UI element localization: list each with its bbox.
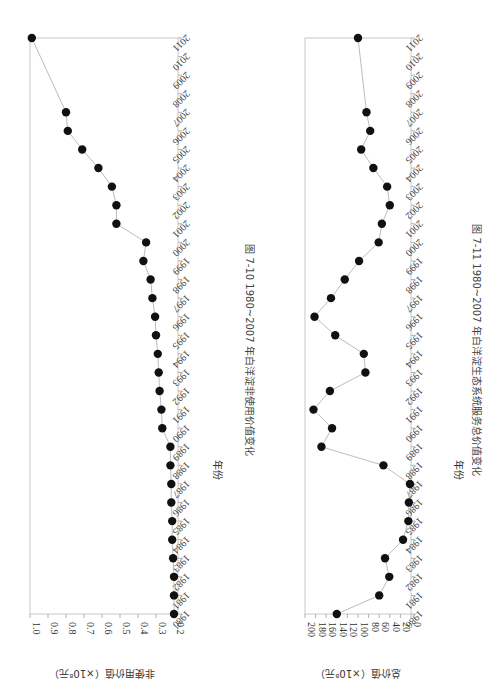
year-axis-tick-label: 2009 [170, 70, 192, 92]
year-axis-tick-label: 2011 [171, 33, 193, 55]
data-point [404, 517, 412, 525]
year-axis-tick-label: 2007 [403, 107, 425, 129]
year-axis-tick-label: 1990 [403, 423, 425, 445]
year-axis-tick-label: 1993 [170, 367, 192, 389]
year-axis-tick-label: 2003 [170, 181, 192, 203]
data-point [309, 405, 317, 413]
year-axis-tick-label: 1991 [403, 404, 425, 426]
data-point [155, 368, 163, 376]
data-point [357, 145, 365, 153]
data-point [167, 498, 175, 506]
year-axis-tick-label: 2005 [170, 144, 192, 166]
year-axis-tick-label: 2005 [403, 144, 425, 166]
year-axis-tick-label: 2001 [170, 218, 192, 240]
value-axis-tick-label: 0.6 [103, 622, 114, 635]
year-axis-tick-label: 1994 [170, 348, 192, 370]
data-point [157, 405, 165, 413]
year-axis-tick-label: 2010 [170, 51, 192, 73]
value-axis-tick-label: 0.7 [85, 622, 96, 635]
data-point [362, 108, 370, 116]
year-axis-tick-label: 2011 [404, 33, 426, 55]
data-point [361, 368, 369, 376]
year-axis-tick-label: 1998 [170, 274, 192, 296]
data-point [62, 108, 70, 116]
data-point [354, 34, 362, 42]
year-axis-tick-label: 1994 [403, 348, 425, 370]
series-line [314, 38, 410, 614]
value-axis-tick-label: 40 [391, 622, 402, 632]
year-axis-tick-label: 2000 [403, 237, 425, 259]
figure-caption: 图 7-10 1980~2007 年白洋淀非使用价值变化 [244, 244, 256, 456]
year-axis-tick-label: 1984 [403, 534, 425, 556]
data-point [360, 350, 368, 358]
data-point [383, 182, 391, 190]
year-axis-tick-label: 1992 [403, 386, 425, 408]
year-axis-tick-label: 2008 [170, 88, 192, 110]
year-axis-tick-label: 2010 [403, 51, 425, 73]
value-axis-tick-label: 60 [380, 622, 391, 632]
value-axis-tick-label: 140 [338, 622, 349, 637]
data-point [375, 591, 383, 599]
year-axis-tick-label: 1993 [403, 367, 425, 389]
year-axis-title: 年份 [212, 460, 224, 480]
year-axis-tick-label: 1997 [170, 293, 192, 315]
data-point [369, 164, 377, 172]
data-point [381, 554, 389, 562]
data-point [166, 443, 174, 451]
year-axis-tick-label: 2007 [170, 107, 192, 129]
data-point [167, 480, 175, 488]
year-axis-tick-label: 2002 [170, 200, 192, 222]
data-point [406, 480, 414, 488]
data-point [28, 34, 36, 42]
year-axis-tick-label: 1991 [170, 404, 192, 426]
year-axis-tick-label: 2002 [403, 200, 425, 222]
data-point [310, 313, 318, 321]
value-axis-title: 总价值（×10⁸元） [315, 668, 400, 680]
data-point [399, 535, 407, 543]
data-point [112, 201, 120, 209]
data-point [166, 461, 174, 469]
year-axis-tick-label: 1999 [403, 256, 425, 278]
year-axis-tick-label: 2004 [403, 163, 425, 185]
plot-frame [305, 38, 411, 614]
year-axis-tick-label: 1996 [403, 311, 425, 333]
data-point [378, 220, 386, 228]
data-point [146, 275, 154, 283]
data-point [169, 554, 177, 562]
data-point [405, 498, 413, 506]
year-axis-tick-label: 2006 [170, 125, 192, 147]
data-point [170, 591, 178, 599]
page-figure: 0.20.30.40.50.60.70.80.91.01980198119821… [0, 0, 490, 698]
year-axis-tick-label: 2003 [403, 181, 425, 203]
data-point [385, 573, 393, 581]
year-axis-tick-label: 1989 [403, 441, 425, 463]
data-point [331, 331, 339, 339]
year-axis-tick-label: 1996 [170, 311, 192, 333]
series-line [32, 38, 174, 614]
year-axis-tick-label: 2009 [403, 70, 425, 92]
data-point [355, 257, 363, 265]
data-point [139, 257, 147, 265]
value-axis-tick-label: 0.8 [67, 622, 78, 635]
value-axis-tick-label: 0.5 [121, 622, 132, 635]
data-point [326, 387, 334, 395]
value-axis-tick-label: 80 [370, 622, 381, 632]
data-point [78, 145, 86, 153]
year-axis-tick-label: 1998 [403, 274, 425, 296]
value-axis-tick-label: 1.0 [31, 622, 42, 635]
data-point [170, 573, 178, 581]
year-axis-tick-label: 1990 [170, 423, 192, 445]
year-axis-tick-label: 2004 [170, 163, 192, 185]
data-point [112, 220, 120, 228]
data-point [155, 387, 163, 395]
data-point [152, 331, 160, 339]
value-axis-tick-label: 160 [327, 622, 338, 637]
year-axis-tick-label: 2001 [403, 218, 425, 240]
data-point [333, 610, 341, 618]
year-axis-tick-label: 1995 [403, 330, 425, 352]
value-axis-tick-label: 0.3 [157, 622, 168, 635]
data-point [328, 424, 336, 432]
value-axis-title: 非使用价值（×10⁸元） [49, 668, 154, 680]
year-axis-tick-label: 2000 [170, 237, 192, 259]
year-axis-tick-label: 1988 [403, 460, 425, 482]
